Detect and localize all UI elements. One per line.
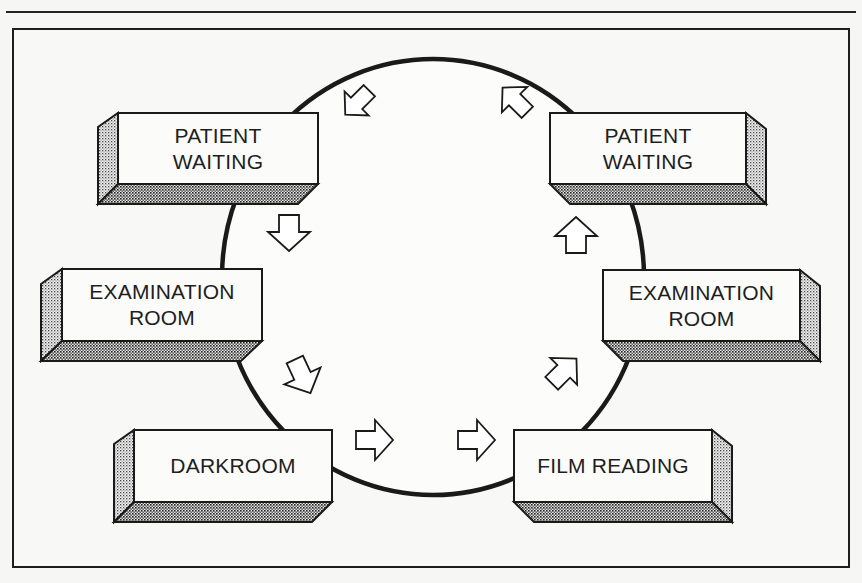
label-left-examination-room: EXAMINATION ROOM <box>62 269 262 341</box>
label-right-examination-room: EXAMINATION ROOM <box>603 270 800 341</box>
label-film-reading: FILM READING <box>514 430 712 502</box>
label-darkroom: DARKROOM <box>134 430 332 502</box>
label-left-patient-waiting: PATIENT WAITING <box>118 113 318 184</box>
label-right-patient-waiting: PATIENT WAITING <box>550 113 746 184</box>
